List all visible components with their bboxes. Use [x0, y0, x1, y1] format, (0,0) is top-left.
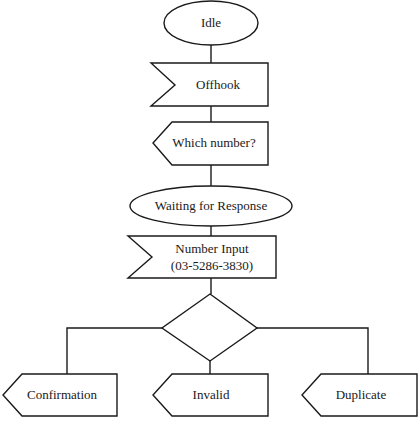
node-waiting: Waiting for Response	[130, 186, 292, 226]
node-label: Confirmation	[27, 387, 98, 402]
node-label: Idle	[201, 15, 221, 30]
edge-decision-duplicate	[257, 328, 368, 374]
edge-decision-confirmation	[67, 328, 162, 374]
node-number-input: Number Input (03-5286-3830)	[128, 236, 276, 278]
node-offhook: Offhook	[151, 63, 268, 106]
decision-diamond	[162, 294, 257, 361]
node-decision	[162, 294, 257, 361]
node-label: Invalid	[193, 387, 230, 402]
flowchart-canvas: Idle Offhook Which number? Waiting for R…	[0, 0, 419, 425]
node-label: Waiting for Response	[155, 198, 268, 213]
node-label-line2: (03-5286-3830)	[171, 258, 253, 273]
node-confirmation: Confirmation	[3, 374, 117, 416]
node-label: Which number?	[172, 135, 256, 150]
node-invalid: Invalid	[153, 374, 268, 416]
node-label-line1: Number Input	[175, 241, 249, 256]
node-label: Duplicate	[336, 387, 387, 402]
node-idle: Idle	[164, 1, 258, 45]
node-which-number: Which number?	[153, 122, 268, 165]
node-duplicate: Duplicate	[302, 374, 417, 416]
node-label: Offhook	[196, 77, 240, 92]
